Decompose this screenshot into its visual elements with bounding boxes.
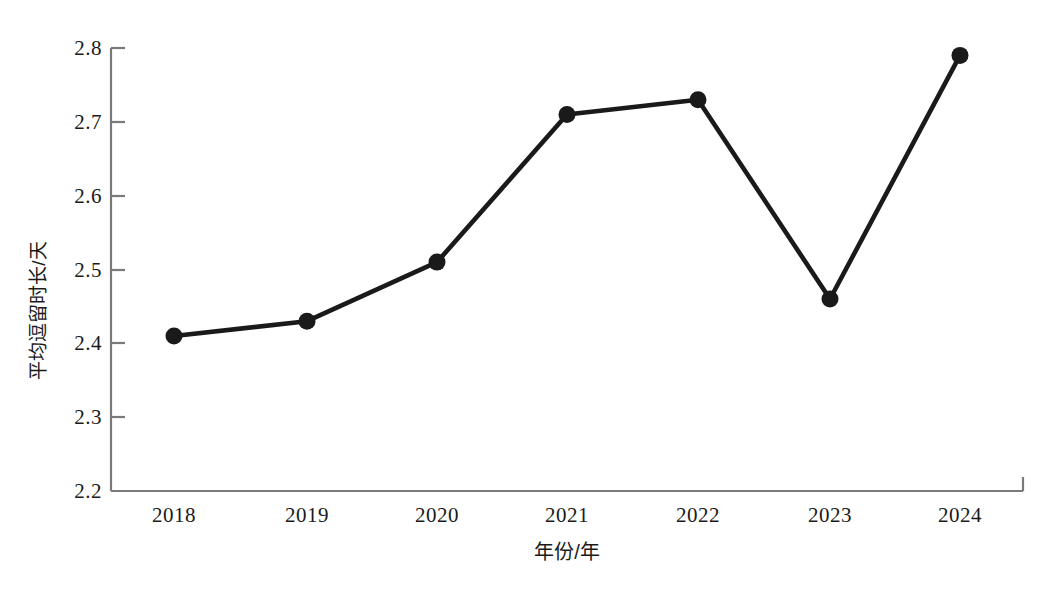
data-point-2023 xyxy=(822,291,839,308)
y-tick-label-2-6: 2.6 xyxy=(48,184,102,209)
chart-figure: 2.8 2.7 2.6 2.5 2.4 2.3 2.2 2018 2019 20… xyxy=(0,0,1055,593)
data-point-2018 xyxy=(166,327,183,344)
x-tick-label-2021: 2021 xyxy=(517,503,617,528)
data-point-markers xyxy=(166,47,969,345)
x-tick-label-2024: 2024 xyxy=(910,503,1010,528)
data-point-2021 xyxy=(559,106,576,123)
data-point-2019 xyxy=(299,313,316,330)
data-line xyxy=(174,55,960,336)
x-tick-label-2019: 2019 xyxy=(257,503,357,528)
y-tick-label-2-3: 2.3 xyxy=(48,405,102,430)
x-tick-label-2023: 2023 xyxy=(780,503,880,528)
y-tick-label-2-4: 2.4 xyxy=(48,331,102,356)
x-tick-label-2020: 2020 xyxy=(387,503,487,528)
y-tick-label-2-7: 2.7 xyxy=(48,110,102,135)
y-tick-label-2-5: 2.5 xyxy=(48,258,102,283)
y-tick-marks xyxy=(111,122,125,417)
data-point-2020 xyxy=(429,254,446,271)
x-tick-label-2018: 2018 xyxy=(124,503,224,528)
data-point-2022 xyxy=(690,91,707,108)
y-tick-label-2-8: 2.8 xyxy=(48,36,102,61)
y-tick-label-2-2: 2.2 xyxy=(48,479,102,504)
x-axis-title: 年份/年 xyxy=(417,536,717,565)
y-axis-title: 平均逗留时长/天 xyxy=(23,231,50,391)
data-point-2024 xyxy=(952,47,969,64)
x-tick-label-2022: 2022 xyxy=(648,503,748,528)
